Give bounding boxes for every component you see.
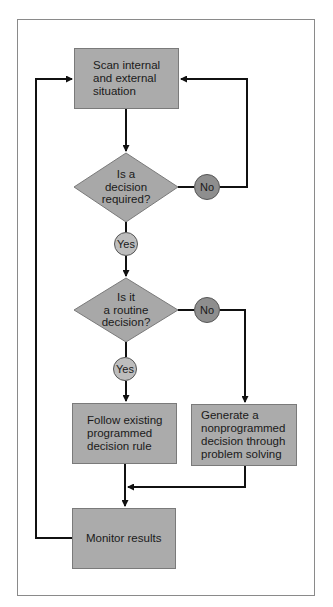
no-circle-routine-decision: No: [194, 297, 220, 323]
follow-rule-box: Follow existing programmed decision rule: [72, 403, 177, 464]
monitor-results-box: Monitor results: [72, 508, 176, 569]
monitor-results-label: Monitor results: [86, 532, 161, 545]
follow-rule-label: Follow existing programmed decision rule: [87, 414, 162, 453]
no-circle-decision-required: No: [194, 174, 220, 200]
scan-situation-box: Scan internal and external situation: [74, 48, 179, 109]
yes-circle-routine-decision: Yes: [113, 357, 137, 381]
generate-decision-box: Generate a nonprogrammed decision throug…: [191, 404, 297, 466]
yes-label: Yes: [117, 238, 135, 250]
decision-required-label: Is a decision required?: [86, 168, 166, 206]
no-label: No: [200, 304, 214, 316]
scan-situation-label: Scan internal and external situation: [93, 59, 160, 98]
yes-circle-decision-required: Yes: [114, 232, 138, 256]
routine-decision-label: Is it a routine decision?: [86, 291, 166, 329]
generate-decision-label: Generate a nonprogrammed decision throug…: [201, 409, 285, 461]
yes-label: Yes: [116, 363, 134, 375]
no-label: No: [200, 181, 214, 193]
